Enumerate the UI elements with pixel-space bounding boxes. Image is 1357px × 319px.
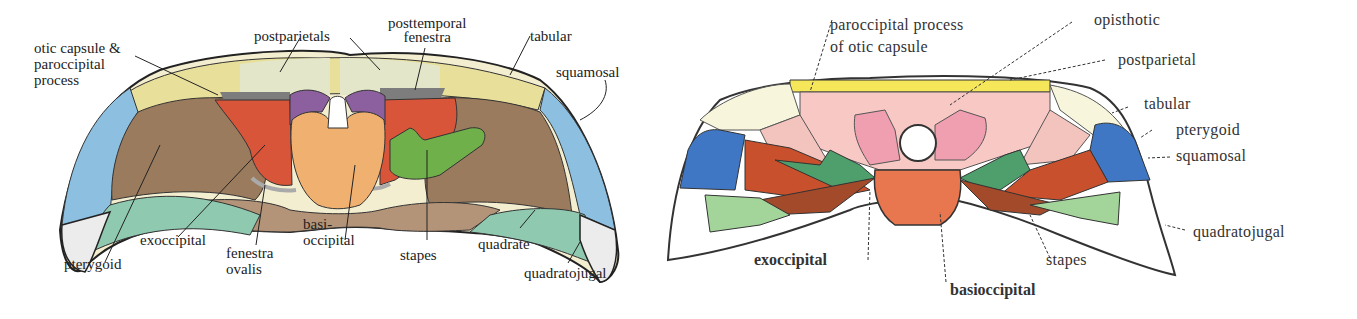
label-basioccipital-right: basioccipital — [950, 282, 1035, 298]
right-squamosal-r — [1090, 123, 1150, 182]
label-tabular-left: tabular — [530, 28, 572, 44]
label-pterygoid-right: pterygoid — [1176, 122, 1240, 138]
right-opisthotic-side-l — [760, 115, 830, 165]
right-tabular-l — [700, 84, 800, 130]
label-exoccipital-left: exoccipital — [140, 232, 206, 248]
right-quadrate-l — [705, 195, 790, 232]
right-stapes-r — [960, 180, 1060, 215]
diagram-stage: otic capsule & paroccipital process post… — [0, 0, 1357, 319]
right-opisthotic — [800, 92, 1050, 170]
label-opisthotic: opisthotic — [1094, 12, 1160, 28]
label-squamosal-right: squamosal — [1176, 148, 1246, 164]
right-stapes-l — [760, 178, 875, 215]
right-tabular-r — [1050, 85, 1125, 140]
right-skull-outline — [668, 76, 1175, 275]
right-pterygoid-red-l — [745, 140, 870, 200]
label-otic-capsule: otic capsule & paroccipital process — [34, 40, 121, 88]
right-paroccipital-l — [854, 110, 900, 165]
label-stapes-left: stapes — [400, 247, 437, 263]
right-opisthotic-side-r — [1020, 110, 1090, 165]
label-quadrate: quadrate — [478, 236, 530, 252]
right-foramen-magnum — [900, 125, 936, 161]
label-quadratojugal-right: quadratojugal — [1193, 224, 1285, 240]
right-exoccipital-r — [960, 150, 1030, 190]
label-stapes-right: stapes — [1046, 252, 1087, 268]
label-fenestra-ovalis: fenestra ovalis — [226, 245, 273, 277]
label-paroccipital-process: paroccipital process of otic capsule — [830, 14, 964, 58]
label-exoccipital-right: exoccipital — [754, 252, 827, 268]
label-posttemporal-fenestra: posttemporal fenestra — [388, 16, 466, 44]
right-pterygoid-red-r — [1000, 150, 1108, 200]
label-postparietals: postparietals — [254, 28, 330, 44]
label-squamosal-left: squamosal — [556, 64, 619, 80]
right-exoccipital-l — [775, 150, 875, 190]
label-tabular-right: tabular — [1144, 96, 1191, 112]
left-foramen-magnum — [328, 96, 348, 128]
label-basioccipital-left: basi- occipital — [303, 216, 355, 248]
right-squamosal-l — [680, 130, 745, 190]
right-paroccipital-r — [935, 110, 986, 160]
label-pterygoid-left: pterygoid — [64, 256, 122, 272]
right-postparietal — [790, 80, 1050, 92]
label-postparietal-right: postparietal — [1118, 52, 1196, 68]
right-basioccipital — [874, 170, 960, 225]
label-quadratojugal-left: quadratojugal — [524, 265, 606, 281]
right-quadrate-r — [1030, 192, 1120, 225]
